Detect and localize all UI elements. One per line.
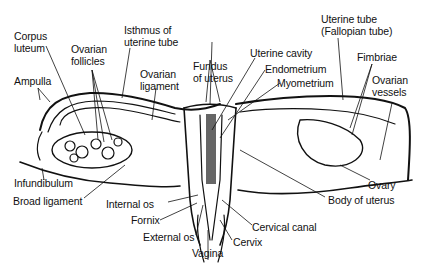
label-ovarian-vessels: Ovarian vessels <box>372 75 408 98</box>
label-body-of-uterus: Body of uterus <box>328 195 394 207</box>
label-infundibulum: Infundibulum <box>14 178 73 190</box>
label-vagina: Vagina <box>192 248 223 260</box>
diagram-canvas: Corpus luteum Ovarian follicles Isthmus … <box>0 0 421 270</box>
label-external-os: External os <box>143 232 194 244</box>
label-ampulla: Ampulla <box>14 76 51 88</box>
label-endometrium: Endometrium <box>265 64 326 76</box>
label-ovarian-ligament: Ovarian ligament <box>140 69 179 92</box>
anatomy-illustration <box>0 0 421 270</box>
label-cervical-canal: Cervical canal <box>252 222 317 234</box>
label-myometrium: Myometrium <box>277 78 334 90</box>
label-fundus-of-uterus: Fundus of uterus <box>193 61 233 84</box>
label-cervix: Cervix <box>233 237 262 249</box>
label-uterine-cavity: Uterine cavity <box>250 48 312 60</box>
label-corpus-luteum: Corpus luteum <box>14 31 47 54</box>
label-broad-ligament: Broad ligament <box>13 196 82 208</box>
label-isthmus-of-uterine-tube: Isthmus of uterine tube <box>124 25 178 48</box>
label-internal-os: Internal os <box>106 199 154 211</box>
label-ovarian-follicles: Ovarian follicles <box>71 44 107 67</box>
label-uterine-tube: Uterine tube (Fallopian tube) <box>321 14 392 37</box>
label-fimbriae: Fimbriae <box>357 52 397 64</box>
label-ovary: Ovary <box>368 180 396 192</box>
label-fornix: Fornix <box>131 215 160 227</box>
